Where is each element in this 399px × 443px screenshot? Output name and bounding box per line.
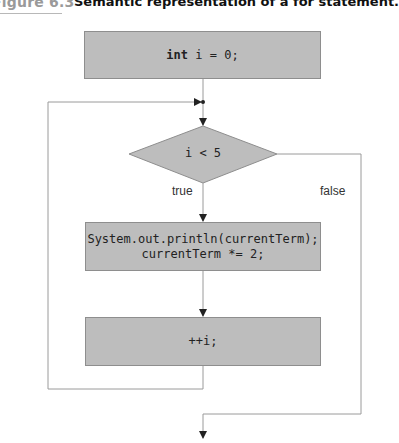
condition-label: i < 5: [163, 146, 243, 160]
false-branch-label: false: [320, 184, 345, 198]
true-branch-label: true: [172, 184, 193, 198]
update-statement: ++i;: [189, 334, 218, 349]
init-node: int i = 0;: [84, 31, 321, 79]
body-line-2: currentTerm *= 2;: [142, 247, 265, 262]
init-statement: i = 0;: [188, 48, 239, 62]
init-keyword: int: [166, 48, 188, 62]
update-node: ++i;: [85, 317, 321, 366]
body-node: System.out.println(currentTerm); current…: [85, 222, 321, 271]
body-line-1: System.out.println(currentTerm);: [87, 232, 318, 247]
